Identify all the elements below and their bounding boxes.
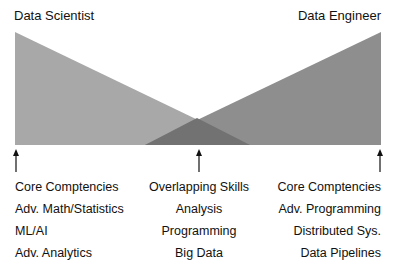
column-heading: Core Comptencies xyxy=(277,176,381,198)
overlapping-skills: Overlapping Skills Analysis Programming … xyxy=(138,176,260,264)
skill-item: Adv. Programming xyxy=(277,198,381,220)
skill-item: Adv. Analytics xyxy=(15,242,124,264)
skill-item: Big Data xyxy=(138,242,260,264)
data-scientist-skills: Core Comptencies Adv. Math/Statistics ML… xyxy=(15,176,124,264)
skill-item: Distributed Sys. xyxy=(277,220,381,242)
column-heading: Core Comptencies xyxy=(15,176,124,198)
skill-item: Adv. Math/Statistics xyxy=(15,198,124,220)
skill-item: Programming xyxy=(138,220,260,242)
data-engineer-skills: Core Comptencies Adv. Programming Distri… xyxy=(277,176,381,264)
arrow-middle-icon xyxy=(196,149,202,172)
arrow-left-icon xyxy=(13,149,19,172)
skill-item: ML/AI xyxy=(15,220,124,242)
skill-item: Data Pipelines xyxy=(277,242,381,264)
arrow-right-icon xyxy=(377,149,383,172)
column-heading: Overlapping Skills xyxy=(138,176,260,198)
skill-item: Analysis xyxy=(138,198,260,220)
